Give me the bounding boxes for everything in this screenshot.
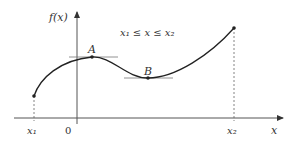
tick-x2-label: x₂: [227, 125, 237, 136]
endpoint-x1: [32, 94, 36, 98]
point-b-label: B: [143, 65, 152, 78]
function-curve: [34, 28, 234, 96]
point-a-label: A: [87, 43, 96, 56]
function-extrema-diagram: f(x) x₁ ≤ x ≤ x₂ A B x₁ 0 x₂ x: [0, 0, 294, 141]
domain-label: x₁ ≤ x ≤ x₂: [120, 27, 174, 38]
y-axis-label: f(x): [48, 11, 68, 24]
tick-x1-label: x₁: [27, 125, 37, 136]
endpoint-x2: [232, 26, 236, 30]
x-axis-label: x: [271, 124, 278, 137]
tick-zero-label: 0: [65, 125, 71, 136]
diagram-canvas: f(x) x₁ ≤ x ≤ x₂ A B x₁ 0 x₂ x: [0, 0, 294, 141]
